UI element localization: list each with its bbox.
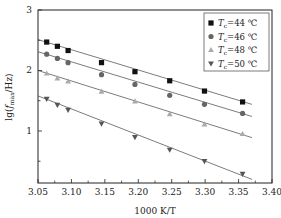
x-tick-label: 3.25 — [162, 187, 182, 197]
x-tick-label: 3.40 — [262, 187, 281, 197]
x-tick-label: 3.15 — [95, 187, 115, 197]
x-tick-label: 3.10 — [61, 187, 81, 197]
y-tick-label: 2 — [26, 65, 32, 75]
y-axis-title: lg(fmax/Hz) — [4, 73, 15, 120]
x-tick-label: 3.05 — [28, 187, 48, 197]
fit-line — [38, 70, 252, 137]
chart-figure: 3.053.103.153.203.253.303.353.40 123 100… — [0, 0, 281, 218]
y-tick-label: 1 — [26, 126, 32, 136]
y-tick-labels: 123 — [26, 5, 32, 136]
y-tick-label: 3 — [26, 5, 32, 15]
x-tick-labels: 3.053.103.153.203.253.303.353.40 — [28, 187, 281, 197]
x-axis-title: 1000 K/T — [134, 206, 176, 216]
x-tick-label: 3.35 — [229, 187, 249, 197]
x-tick-label: 3.20 — [128, 187, 148, 197]
legend: Tc=44 ℃Tc=46 ℃Tc=48 ℃Tc=50 ℃ — [204, 13, 269, 71]
x-tick-label: 3.30 — [195, 187, 215, 197]
